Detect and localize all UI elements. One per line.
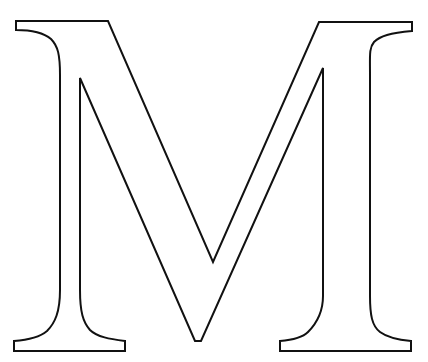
letter-canvas: M xyxy=(0,0,428,362)
letter-m-outer-path xyxy=(14,21,412,351)
letter-m-outline xyxy=(0,0,428,362)
